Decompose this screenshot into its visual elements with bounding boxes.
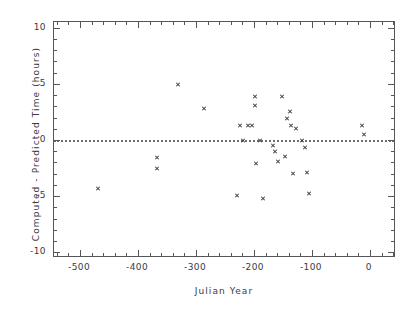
- x-axis-label: Julian Year: [53, 286, 395, 296]
- y-tick-label: -10: [30, 246, 46, 256]
- data-point: [293, 126, 298, 131]
- y-tick-right-minor: [391, 95, 394, 96]
- x-tick-minor: [126, 253, 127, 256]
- data-point: [272, 149, 277, 154]
- data-point: [261, 196, 266, 201]
- x-tick-minor: [103, 253, 104, 256]
- y-tick-right-minor: [391, 50, 394, 51]
- x-tick-top-minor: [126, 22, 127, 25]
- x-tick-minor: [115, 253, 116, 256]
- x-tick-top-minor: [103, 22, 104, 25]
- x-tick-major: [138, 250, 139, 256]
- zero-reference-line: [54, 140, 394, 142]
- x-tick-major: [80, 250, 81, 256]
- x-tick-minor: [300, 253, 301, 256]
- x-tick-top-minor: [68, 22, 69, 25]
- y-tick-right-minor: [391, 185, 394, 186]
- y-tick-right-major: [388, 140, 394, 141]
- x-tick-minor: [150, 253, 151, 256]
- y-tick-minor: [54, 151, 57, 152]
- x-tick-top-minor: [358, 22, 359, 25]
- x-tick-label: 0: [366, 262, 372, 272]
- x-tick-top-minor: [173, 22, 174, 25]
- x-tick-label: -300: [184, 262, 206, 272]
- y-tick-major: [54, 84, 60, 85]
- data-point: [176, 82, 181, 87]
- x-tick-minor: [231, 253, 232, 256]
- data-point: [254, 161, 259, 166]
- data-point: [257, 138, 262, 143]
- data-point: [359, 123, 364, 128]
- y-tick-minor: [54, 61, 57, 62]
- y-tick-label: -5: [36, 190, 46, 200]
- x-tick-minor: [277, 253, 278, 256]
- data-point: [240, 138, 245, 143]
- x-tick-top-minor: [347, 22, 348, 25]
- data-point: [235, 193, 240, 198]
- x-tick-top-minor: [289, 22, 290, 25]
- x-tick-top-minor: [161, 22, 162, 25]
- y-tick-right-minor: [391, 61, 394, 62]
- x-tick-top-minor: [382, 22, 383, 25]
- x-tick-minor: [347, 253, 348, 256]
- y-tick-minor: [54, 129, 57, 130]
- x-tick-top-minor: [266, 22, 267, 25]
- y-tick-minor: [54, 39, 57, 40]
- data-point: [250, 123, 255, 128]
- x-tick-top-major: [196, 22, 197, 28]
- x-tick-major: [254, 250, 255, 256]
- x-tick-top-minor: [393, 22, 394, 25]
- y-tick-right-minor: [391, 241, 394, 242]
- y-tick-label: 5: [40, 78, 46, 88]
- x-tick-minor: [289, 253, 290, 256]
- x-tick-minor: [242, 253, 243, 256]
- x-tick-top-minor: [219, 22, 220, 25]
- x-tick-major: [312, 250, 313, 256]
- x-tick-label: -400: [126, 262, 148, 272]
- x-tick-minor: [266, 253, 267, 256]
- y-tick-minor: [54, 207, 57, 208]
- data-point: [155, 166, 160, 171]
- x-tick-top-major: [370, 22, 371, 28]
- y-tick-right-major: [388, 252, 394, 253]
- data-point: [253, 103, 258, 108]
- x-tick-label: -500: [68, 262, 90, 272]
- y-tick-minor: [54, 174, 57, 175]
- plot-area: [54, 22, 394, 256]
- data-point: [155, 155, 160, 160]
- x-tick-top-minor: [115, 22, 116, 25]
- data-point: [361, 132, 366, 137]
- x-tick-minor: [382, 253, 383, 256]
- x-tick-top-minor: [208, 22, 209, 25]
- y-tick-right-major: [388, 28, 394, 29]
- x-tick-top-minor: [57, 22, 58, 25]
- y-tick-minor: [54, 95, 57, 96]
- x-tick-top-major: [138, 22, 139, 28]
- scatter-chart-figure: Computed - Predicted Time (hours) 1050-5…: [0, 0, 418, 310]
- data-point: [275, 159, 280, 164]
- y-tick-right-minor: [391, 129, 394, 130]
- x-tick-top-minor: [150, 22, 151, 25]
- x-tick-top-minor: [335, 22, 336, 25]
- x-tick-minor: [184, 253, 185, 256]
- plot-frame: [53, 21, 395, 257]
- x-tick-minor: [173, 253, 174, 256]
- data-point: [302, 145, 307, 150]
- x-tick-top-minor: [92, 22, 93, 25]
- x-tick-major: [196, 250, 197, 256]
- x-tick-minor: [57, 253, 58, 256]
- y-tick-major: [54, 196, 60, 197]
- data-point: [300, 138, 305, 143]
- data-point: [285, 116, 290, 121]
- y-tick-right-minor: [391, 174, 394, 175]
- y-tick-minor: [54, 162, 57, 163]
- y-tick-right-minor: [391, 162, 394, 163]
- x-tick-top-minor: [231, 22, 232, 25]
- y-tick-right-minor: [391, 118, 394, 119]
- x-tick-minor: [92, 253, 93, 256]
- data-point: [290, 171, 295, 176]
- x-tick-minor: [208, 253, 209, 256]
- y-tick-right-major: [388, 84, 394, 85]
- x-tick-minor: [68, 253, 69, 256]
- y-tick-label: 10: [34, 22, 46, 32]
